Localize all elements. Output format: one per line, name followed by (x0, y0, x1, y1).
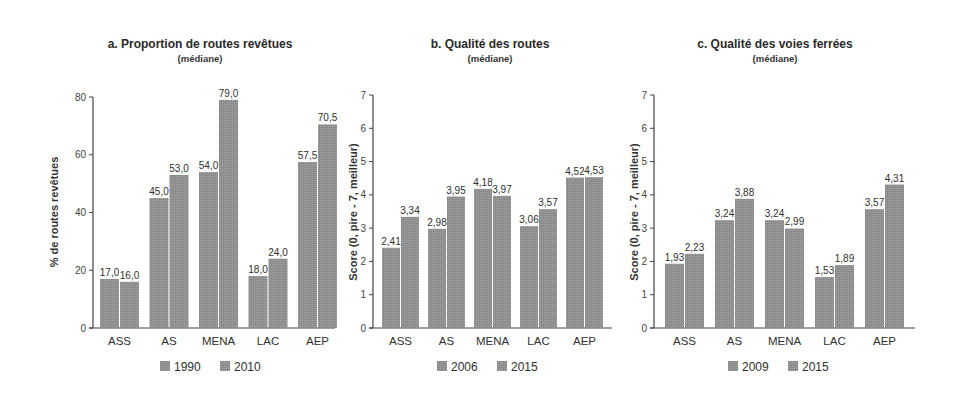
panel-title: c. Qualité des voies ferrées (697, 37, 853, 51)
value-label: 3,57 (865, 197, 885, 208)
legend-swatch-2015 (788, 361, 798, 371)
legend-label: 2006 (451, 360, 478, 374)
value-label: 3,34 (400, 205, 420, 216)
value-label: 3,88 (735, 187, 755, 198)
category-label: ASS (108, 335, 131, 347)
y-tick-label: 1 (360, 289, 366, 300)
bar-2015 (685, 254, 704, 328)
value-label: 3,57 (538, 197, 558, 208)
bar-2015 (885, 185, 904, 328)
bar-2006 (474, 189, 492, 328)
value-label: 3,06 (519, 214, 539, 225)
y-tick-label: 5 (360, 156, 366, 167)
bar-2010 (170, 175, 189, 328)
y-tick-label: 3 (360, 223, 366, 234)
value-label: 4,31 (885, 173, 905, 184)
bar-2015 (785, 228, 804, 328)
bar-1990 (100, 279, 119, 328)
bar-2010 (120, 282, 139, 328)
legend-label: 2015 (802, 360, 829, 374)
category-label: AEP (573, 335, 596, 347)
y-axis-label: % de routes revêtues (48, 157, 60, 268)
bar-2010 (318, 124, 337, 328)
legend-label: 2009 (742, 360, 769, 374)
category-label: AEP (306, 335, 329, 347)
legend-swatch-2006 (437, 361, 447, 371)
bar-2015 (401, 217, 419, 328)
value-label: 2,99 (785, 216, 805, 227)
bar-2015 (835, 265, 854, 328)
y-tick-label: 4 (641, 189, 647, 200)
y-tick-label: 2 (641, 256, 647, 267)
category-label: AEP (873, 335, 896, 347)
figure-three-bar-charts: a. Proportion de routes revêtues (médian… (0, 0, 961, 413)
value-label: 3,24 (765, 208, 785, 219)
category-label: MENA (202, 335, 236, 347)
bar-2010 (219, 100, 238, 328)
bar-1990 (199, 172, 218, 328)
panel-subtitle: (médiane) (178, 53, 223, 64)
value-label: 53,0 (169, 163, 189, 174)
legend-label: 1990 (174, 360, 201, 374)
bar-2015 (493, 196, 511, 328)
bar-2015 (447, 197, 465, 328)
legend-swatch-1990 (160, 361, 170, 371)
bar-2009 (765, 220, 784, 328)
value-label: 79,0 (219, 88, 239, 99)
category-label: AS (439, 335, 455, 347)
bar-1990 (298, 162, 317, 328)
bar-2006 (428, 229, 446, 328)
y-tick-label: 0 (641, 323, 647, 334)
y-axis-label: Score (0, pire - 7, meilleur) (347, 143, 359, 281)
y-tick-label: 0 (80, 323, 86, 334)
bar-2009 (715, 220, 734, 328)
legend-label: 2010 (234, 360, 261, 374)
bar-2006 (566, 178, 584, 328)
value-label: 2,41 (381, 236, 401, 247)
bar-2009 (865, 209, 884, 328)
legend-swatch-2010 (220, 361, 230, 371)
y-tick-label: 40 (75, 207, 87, 218)
bar-2015 (539, 209, 557, 328)
y-tick-label: 60 (75, 149, 87, 160)
category-label: AS (727, 335, 743, 347)
panel-subtitle: (médiane) (468, 53, 513, 64)
bar-2009 (665, 264, 684, 328)
y-tick-label: 1 (641, 289, 647, 300)
bar-2010 (269, 259, 288, 328)
y-tick-label: 80 (75, 92, 87, 103)
y-tick-label: 2 (360, 256, 366, 267)
value-label: 16,0 (120, 270, 140, 281)
category-label: MENA (476, 335, 510, 347)
value-label: 4,18 (473, 177, 493, 188)
y-tick-label: 3 (641, 223, 647, 234)
category-label: LAC (257, 335, 279, 347)
value-label: 54,0 (199, 160, 219, 171)
y-tick-label: 4 (360, 189, 366, 200)
panel-title: b. Qualité des routes (431, 37, 550, 51)
y-tick-label: 0 (360, 323, 366, 334)
category-label: LAC (527, 335, 549, 347)
value-label: 1,93 (665, 252, 685, 263)
value-label: 4,53 (584, 165, 604, 176)
value-label: 70,5 (318, 112, 338, 123)
y-tick-label: 7 (641, 90, 647, 101)
value-label: 17,0 (100, 267, 120, 278)
bar-2006 (382, 248, 400, 328)
category-label: AS (161, 335, 177, 347)
y-tick-label: 5 (641, 156, 647, 167)
bar-2009 (815, 277, 834, 328)
bar-2006 (520, 226, 538, 328)
value-label: 3,24 (715, 208, 735, 219)
category-label: ASS (673, 335, 696, 347)
value-label: 1,53 (815, 265, 835, 276)
bar-1990 (150, 198, 169, 328)
category-label: MENA (768, 335, 802, 347)
category-label: ASS (389, 335, 412, 347)
category-label: LAC (823, 335, 845, 347)
bar-2015 (585, 177, 603, 328)
bar-2015 (735, 199, 754, 328)
y-tick-label: 20 (75, 265, 87, 276)
y-axis-label: Score (0, pire - 7, meilleur) (628, 143, 640, 281)
legend-swatch-2015 (497, 361, 507, 371)
